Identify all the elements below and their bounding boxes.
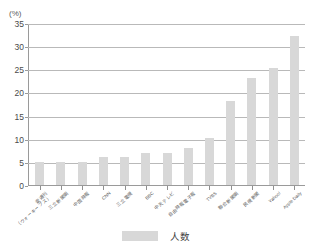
- bar-slot: [93, 24, 114, 185]
- bar: [247, 78, 256, 185]
- y-tick-mark: [25, 140, 28, 141]
- bar: [99, 157, 108, 185]
- y-tick-mark: [25, 163, 28, 164]
- y-tick-label: 5: [19, 158, 24, 168]
- bar: [205, 138, 214, 185]
- bar: [56, 162, 65, 185]
- y-tick-mark: [25, 93, 28, 94]
- bar: [163, 153, 172, 185]
- bar-slot: [135, 24, 156, 185]
- bar: [141, 153, 150, 185]
- plot-area: 05101520253035: [28, 24, 305, 186]
- legend-label-ninzu: 人数: [170, 229, 190, 243]
- bar-slot: [50, 24, 71, 185]
- bar-slot: [114, 24, 135, 185]
- y-tick-mark: [25, 70, 28, 71]
- y-tick-mark: [25, 47, 28, 48]
- bar-slot: [178, 24, 199, 185]
- y-tick-mark: [25, 117, 28, 118]
- y-tick-label: 10: [15, 135, 24, 145]
- legend: 人数: [0, 226, 311, 246]
- y-tick-label: 35: [15, 19, 24, 29]
- y-tick-label: 30: [15, 42, 24, 52]
- x-axis-labels: 壹週刊（ウォーキーブス）三立新聞網中国時報CNN三立電視BBC中天テレビ自由時報…: [29, 190, 305, 226]
- bar-slot: [29, 24, 50, 185]
- y-tick-label: 15: [15, 112, 24, 122]
- bar-slot: [263, 24, 284, 185]
- bar-slot: [284, 24, 305, 185]
- bar: [226, 101, 235, 185]
- legend-swatch-ninzu: [122, 231, 158, 241]
- bar: [78, 162, 87, 185]
- bar-slot: [220, 24, 241, 185]
- bar-chart: (%) 05101520253035 壹週刊（ウォーキーブス）三立新聞網中国時報…: [0, 0, 311, 249]
- y-axis-unit-label: (%): [9, 9, 21, 18]
- bar-slot: [71, 24, 92, 185]
- bar: [35, 162, 44, 185]
- y-tick-mark: [25, 186, 28, 187]
- bar: [290, 36, 299, 185]
- bar-slot: [199, 24, 220, 185]
- bar: [184, 148, 193, 185]
- bar-slot: [156, 24, 177, 185]
- y-tick-label: 25: [15, 65, 24, 75]
- bar: [120, 157, 129, 185]
- bar-slot: [241, 24, 262, 185]
- bar-series: [29, 24, 305, 185]
- y-tick-label: 20: [15, 88, 24, 98]
- y-tick-label: 0: [19, 181, 24, 191]
- bar: [269, 68, 278, 185]
- y-tick-mark: [25, 24, 28, 25]
